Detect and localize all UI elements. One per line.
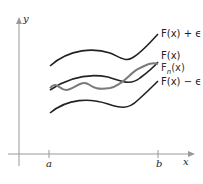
y-axis-label: y <box>23 13 29 24</box>
x-axis-arrow-icon <box>188 151 195 157</box>
curve-f-plus-eps <box>50 34 158 66</box>
figure: y x a b F(x) + ϵ F(x) Fn(x) F(x) − ϵ <box>0 0 203 184</box>
label-f: F(x) <box>161 50 180 61</box>
y-axis-arrow-icon <box>16 17 22 24</box>
tick-b-label: b <box>156 158 162 169</box>
x-axis-label: x <box>183 156 189 167</box>
curve-f-minus-eps <box>50 81 158 113</box>
tick-a-label: a <box>46 158 52 169</box>
label-f-minus-eps: F(x) − ϵ <box>161 76 201 87</box>
label-fn: Fn(x) <box>161 62 185 76</box>
label-f-plus-eps: F(x) + ϵ <box>161 28 201 39</box>
